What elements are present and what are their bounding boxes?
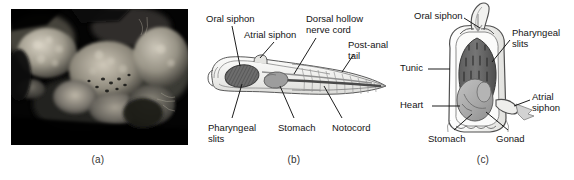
photo-content bbox=[11, 9, 188, 145]
panel-b-caption: (b) bbox=[196, 154, 392, 165]
label-post-anal-tail: Post-anal tail bbox=[348, 40, 388, 61]
panel-b-larva-diagram: Oral siphon Atrial siphon Dorsal hollow … bbox=[196, 0, 392, 180]
panel-a-photograph: (a) bbox=[0, 0, 196, 180]
label-gonad: Gonad bbox=[496, 134, 525, 145]
adult-drawing bbox=[392, 0, 574, 150]
gonad-structure bbox=[477, 82, 491, 102]
label-oral-siphon: Oral siphon bbox=[414, 11, 463, 22]
tunicate-figure: (a) bbox=[0, 0, 574, 180]
leader-atrial-siphon bbox=[260, 42, 274, 58]
label-pharyngeal-slits: Pharyngeal slits bbox=[208, 123, 256, 144]
tunicate-colony-photo bbox=[11, 9, 188, 145]
panel-a-caption: (a) bbox=[0, 154, 196, 165]
panel-c-caption: (c) bbox=[392, 154, 574, 165]
label-atrial-siphon: Atrial siphon bbox=[532, 92, 560, 113]
label-oral-siphon: Oral siphon bbox=[206, 14, 255, 25]
label-atrial-siphon: Atrial siphon bbox=[244, 30, 296, 41]
label-pharyngeal-slits: Pharyngeal slits bbox=[512, 28, 560, 49]
label-tunic: Tunic bbox=[400, 63, 423, 74]
leader-atrial-siphon bbox=[514, 100, 530, 106]
label-heart: Heart bbox=[400, 100, 423, 111]
label-stomach: Stomach bbox=[428, 134, 466, 145]
label-dorsal-hollow-nerve-cord: Dorsal hollow nerve cord bbox=[306, 14, 363, 35]
panel-c-adult-diagram: Oral siphon Pharyngeal slits Tunic Atria… bbox=[392, 0, 574, 180]
label-stomach: Stomach bbox=[278, 123, 316, 134]
label-notocord: Notocord bbox=[332, 123, 371, 134]
